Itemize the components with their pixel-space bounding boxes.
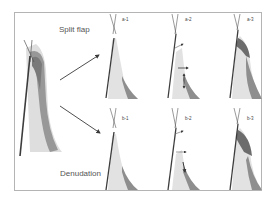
panel-label-b-1: b-1 bbox=[122, 116, 129, 121]
arrow-to-denudation bbox=[60, 106, 100, 133]
panel-a-3 bbox=[230, 14, 262, 99]
periodontal-diagram bbox=[0, 0, 276, 204]
initial-tooth-illustration bbox=[20, 40, 62, 156]
panel-a-1 bbox=[106, 14, 138, 99]
panel-label-a-1: a-1 bbox=[122, 17, 129, 22]
row-title-denudation: Denudation bbox=[60, 169, 101, 178]
row-title-split-flap: Split flap bbox=[59, 25, 90, 34]
panel-b-3 bbox=[230, 108, 262, 190]
panel-label-b-3: b-3 bbox=[247, 116, 254, 121]
arrow-to-split-flap bbox=[60, 55, 99, 80]
panel-label-a-3: a-3 bbox=[247, 17, 254, 22]
panel-label-a-2: a-2 bbox=[185, 17, 192, 22]
panel-a-2 bbox=[168, 14, 200, 99]
panel-label-b-2: b-2 bbox=[185, 116, 192, 121]
panel-b-2 bbox=[168, 108, 200, 190]
